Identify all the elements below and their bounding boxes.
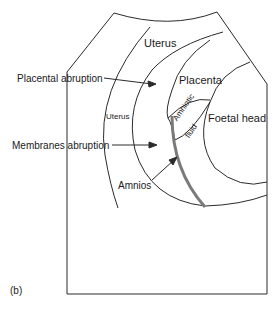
- label-placenta: Placenta: [179, 75, 222, 86]
- amnios-leader: [152, 160, 174, 180]
- panel-label: (b): [10, 286, 22, 296]
- arrowhead-icon: [148, 81, 156, 87]
- outer-outline: [67, 12, 267, 294]
- diagram-drawing: [0, 0, 278, 311]
- label-uterus-top: Uterus: [144, 38, 176, 49]
- label-membranes-abruption: Membranes abruption: [12, 141, 109, 151]
- label-amnios: Amnios: [118, 181, 151, 191]
- label-placental-abruption: Placental abruption: [17, 74, 103, 84]
- label-foetal-head: Foetal head: [208, 113, 266, 124]
- label-uterus-inner: Uterus: [106, 113, 130, 121]
- arrowhead-icon: [149, 142, 157, 148]
